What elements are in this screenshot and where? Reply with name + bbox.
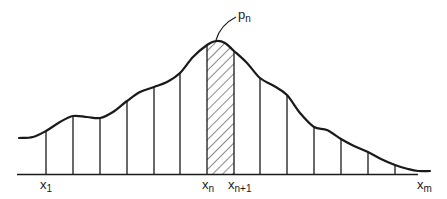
label-pn-main: p	[238, 7, 245, 22]
label-xn: xn	[202, 177, 214, 194]
label-xn1-sub: n+1	[235, 183, 252, 194]
label-xn1: xn+1	[228, 177, 252, 194]
label-x1-sub: 1	[47, 183, 53, 194]
label-pn: pn	[238, 7, 251, 24]
label-xn-sub: n	[209, 183, 215, 194]
pn-leader-line	[216, 17, 236, 40]
label-pn-sub: n	[245, 13, 251, 24]
hatched-strip	[207, 30, 234, 175]
partition-diagram: pn x1 xn xn+1 xm	[0, 0, 447, 199]
label-xm: xm	[417, 177, 432, 194]
label-xm-sub: m	[424, 183, 432, 194]
label-x1: x1	[40, 177, 53, 194]
